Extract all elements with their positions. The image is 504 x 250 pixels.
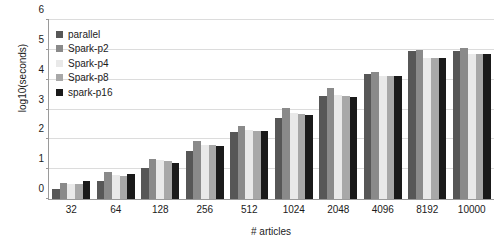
bar-spark-p16 [127, 174, 135, 199]
bar-spark-p4 [67, 184, 75, 199]
y-axis-tick-label: 0 [10, 183, 44, 194]
legend-swatch-icon [56, 74, 63, 81]
bar-set [275, 20, 313, 199]
legend-item: parallel [56, 27, 112, 42]
bar-parallel [52, 189, 60, 199]
bar-spark-p8 [298, 114, 306, 199]
legend-swatch-icon [56, 31, 63, 38]
bar-group: 128 [138, 20, 183, 199]
y-axis-title: log10(seconds) [17, 0, 31, 178]
bar-spark-p8 [209, 145, 217, 199]
bar-spark-p2 [371, 72, 379, 199]
y-axis-tick-label: 3 [10, 93, 44, 104]
legend-label: parallel [68, 29, 100, 40]
bar-spark-p8 [164, 161, 172, 199]
x-axis-tick-label: 32 [49, 204, 94, 215]
bar-spark-p4 [245, 130, 253, 199]
bar-spark-p2 [193, 141, 201, 199]
bar-spark-p4 [112, 175, 120, 199]
bar-parallel [408, 51, 416, 199]
legend-label: spark-p16 [68, 87, 112, 98]
bar-spark-p2 [104, 172, 112, 199]
bar-spark-p16 [439, 58, 447, 199]
bar-spark-p16 [394, 76, 402, 199]
y-axis-tick-label: 6 [10, 4, 44, 15]
bar-spark-p8 [342, 96, 350, 199]
legend-swatch-icon [56, 60, 63, 67]
x-axis-tick-label: 128 [138, 204, 183, 215]
bar-spark-p4 [290, 113, 298, 199]
bar-group: 512 [227, 20, 272, 199]
bar-spark-p8 [253, 131, 261, 199]
bar-spark-p8 [476, 54, 484, 199]
bar-spark-p8 [431, 58, 439, 199]
legend-label: Spark-p4 [68, 58, 109, 69]
bar-chart: log10(seconds) 0123456 32641282565121024… [0, 0, 504, 250]
x-axis-tick-label: 8192 [405, 204, 450, 215]
x-axis-tick-label: 256 [183, 204, 228, 215]
bar-group: 256 [183, 20, 228, 199]
bar-parallel [453, 51, 461, 199]
bar-spark-p2 [460, 48, 468, 199]
x-axis-tick-label: 64 [94, 204, 139, 215]
bar-spark-p16 [483, 54, 491, 199]
bar-spark-p16 [305, 115, 313, 199]
bar-spark-p2 [149, 159, 157, 199]
x-axis-tick-label: 4096 [361, 204, 406, 215]
bar-parallel [319, 96, 327, 199]
legend-label: Spark-p2 [68, 43, 109, 54]
bar-spark-p2 [238, 126, 246, 199]
bar-spark-p16 [172, 163, 180, 199]
y-axis-tick-label: 4 [10, 63, 44, 74]
x-axis-tick-label: 10000 [450, 204, 495, 215]
bar-parallel [141, 168, 149, 199]
bar-parallel [275, 118, 283, 199]
bar-group: 2048 [316, 20, 361, 199]
bar-spark-p2 [60, 183, 68, 199]
x-axis-tick-label: 1024 [272, 204, 317, 215]
bar-set [230, 20, 268, 199]
legend-item: Spark-p8 [56, 71, 112, 86]
bar-set [408, 20, 446, 199]
bar-spark-p8 [75, 184, 83, 200]
bar-spark-p4 [379, 76, 387, 199]
legend: parallelSpark-p2Spark-p4Spark-p8spark-p1… [56, 27, 112, 100]
legend-item: Spark-p2 [56, 42, 112, 57]
bar-spark-p4 [423, 58, 431, 199]
x-axis-tick-label: 2048 [316, 204, 361, 215]
bar-spark-p16 [350, 97, 358, 199]
bar-set [141, 20, 179, 199]
bar-set [319, 20, 357, 199]
legend-item: spark-p16 [56, 85, 112, 100]
bar-group: 10000 [450, 20, 495, 199]
bar-spark-p8 [387, 76, 395, 199]
legend-swatch-icon [56, 89, 63, 96]
bar-set [453, 20, 491, 199]
bar-spark-p16 [216, 146, 224, 199]
bar-group: 4096 [361, 20, 406, 199]
bar-group: 1024 [272, 20, 317, 199]
bar-set [186, 20, 224, 199]
bar-spark-p4 [334, 95, 342, 199]
bar-spark-p4 [156, 160, 164, 199]
bar-group: 8192 [405, 20, 450, 199]
y-axis-tick-label: 5 [10, 33, 44, 44]
bar-parallel [230, 132, 238, 199]
bar-spark-p16 [83, 181, 91, 199]
bar-parallel [186, 151, 194, 199]
x-axis-tick-label: 512 [227, 204, 272, 215]
x-axis-title: # articles [48, 226, 494, 237]
bar-spark-p8 [120, 176, 128, 199]
bar-parallel [97, 181, 105, 199]
y-axis-tick-label: 2 [10, 123, 44, 134]
legend-swatch-icon [56, 45, 63, 52]
bar-spark-p2 [416, 50, 424, 199]
bar-groups: 3264128256512102420484096819210000 [49, 20, 494, 199]
bar-spark-p16 [261, 131, 269, 199]
plot-area: 0123456 32641282565121024204840968192100… [48, 20, 494, 200]
bar-spark-p4 [201, 145, 209, 199]
y-axis-tick-label: 1 [10, 153, 44, 164]
legend-label: Spark-p8 [68, 72, 109, 83]
bar-parallel [364, 74, 372, 199]
bar-spark-p4 [468, 54, 476, 199]
